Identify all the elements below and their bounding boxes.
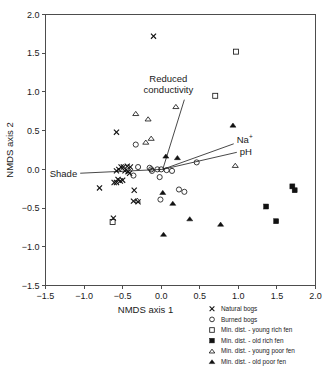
- series-min-dist-old-rich-fen: [264, 184, 298, 224]
- y-axis-tick-label: 0.5: [27, 126, 40, 136]
- series-min-dist-young-poor-fen: [133, 104, 239, 202]
- legend-label: Min. dist. - young poor fen: [221, 347, 295, 355]
- y-axis-tick-label: 2.0: [27, 10, 40, 20]
- x-axis-tick-label: 0.5: [194, 291, 207, 301]
- x-axis-tick-label: 2.0: [309, 291, 322, 301]
- data-point: [151, 34, 156, 39]
- y-axis-tick-label: −1.5: [22, 281, 40, 291]
- y-axis-tick-label: 1.0: [27, 87, 40, 97]
- data-point: [182, 189, 187, 194]
- data-point: [133, 142, 138, 147]
- y-axis-tick-label: −0.5: [22, 203, 40, 213]
- data-point: [148, 136, 154, 140]
- vector-line-ph: [163, 152, 237, 169]
- data-point: [161, 232, 167, 236]
- series-natural-bogs: [97, 34, 156, 221]
- data-point: [264, 204, 269, 209]
- x-axis-tick-label: −0.5: [114, 291, 132, 301]
- chart-canvas: −1.5−1.0−0.50.00.51.01.52.02.01.51.00.50…: [0, 0, 333, 378]
- vector-label-reduced-conductivity-line2: conductivity: [144, 84, 194, 95]
- data-point: [136, 164, 141, 169]
- vector-line-na: [163, 144, 234, 170]
- legend-marker-square-filled: [210, 338, 215, 343]
- data-point: [187, 217, 193, 221]
- series-burned-bogs: [131, 142, 199, 202]
- y-axis-title: NMDS axis 2: [4, 122, 15, 177]
- data-point: [145, 117, 151, 121]
- legend-marker-x: [210, 306, 215, 311]
- legend-marker-square-open: [210, 328, 215, 333]
- legend: Natural bogsBurned bogsMin. dist. - youn…: [209, 305, 295, 366]
- vector-line-reduced-conductivity: [163, 100, 185, 170]
- vector-label-na-plus: Na+: [237, 133, 253, 145]
- data-point: [157, 175, 162, 180]
- legend-marker-triangle-filled: [209, 360, 215, 364]
- vector-label-ph: pH: [240, 146, 252, 157]
- data-point: [158, 197, 163, 202]
- data-point: [133, 111, 139, 115]
- data-point: [292, 188, 297, 193]
- series-min-dist-old-poor-fen: [160, 123, 236, 236]
- vector-label-reduced-conductivity-line1: Reduced: [149, 73, 187, 84]
- data-point: [114, 130, 119, 135]
- x-axis-title: NMDS axis 1: [118, 304, 173, 315]
- data-point: [160, 190, 166, 194]
- data-point: [230, 123, 236, 127]
- axes-layer: −1.5−1.0−0.50.00.51.01.52.02.01.51.00.50…: [22, 10, 322, 301]
- legend-label: Natural bogs: [221, 305, 257, 313]
- data-point: [169, 168, 174, 173]
- data-point: [114, 168, 119, 173]
- plot-frame: [46, 15, 316, 286]
- legend-label: Burned bogs: [221, 316, 257, 324]
- legend-label: Min. dist. - old rich fen: [221, 337, 284, 344]
- data-point: [213, 93, 218, 98]
- data-point: [97, 185, 102, 190]
- data-point: [174, 156, 180, 160]
- x-axis-tick-label: −1.5: [37, 291, 55, 301]
- data-point: [234, 49, 239, 54]
- environmental-vectors-layer: ShadeReducedconductivityNa+pH: [50, 73, 253, 179]
- data-points-layer: [97, 34, 297, 237]
- data-point: [218, 222, 224, 226]
- vector-label-shade: Shade: [50, 168, 77, 179]
- y-axis-tick-label: 0.0: [27, 165, 40, 175]
- data-point: [173, 104, 179, 108]
- data-point: [127, 171, 132, 176]
- data-point: [170, 201, 176, 205]
- x-axis-tick-label: 1.5: [271, 291, 284, 301]
- data-point: [232, 163, 238, 167]
- y-axis-tick-label: 1.5: [27, 48, 40, 58]
- data-point: [163, 154, 169, 158]
- x-axis-tick-label: 1.0: [232, 291, 245, 301]
- data-point: [176, 187, 181, 192]
- nmds-ordination-figure: −1.5−1.0−0.50.00.51.01.52.02.01.51.00.50…: [0, 0, 333, 378]
- legend-label: Min. dist. - young rich fen: [221, 326, 293, 334]
- x-axis-tick-label: 0.0: [155, 291, 168, 301]
- data-point: [274, 219, 279, 224]
- x-axis-tick-label: −1.0: [75, 291, 93, 301]
- y-axis-tick-label: −1.0: [22, 242, 40, 252]
- legend-label: Min. dist. - old poor fen: [221, 358, 286, 366]
- legend-marker-o: [210, 317, 215, 322]
- data-point: [132, 188, 137, 193]
- legend-marker-triangle-open: [209, 349, 215, 353]
